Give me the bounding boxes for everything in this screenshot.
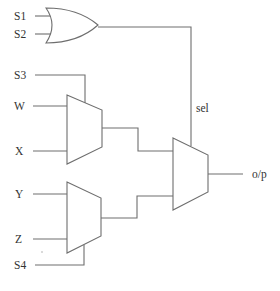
label-output: o/p xyxy=(252,168,267,181)
label-w: W xyxy=(14,100,25,112)
label-x: X xyxy=(15,145,24,157)
or-gate xyxy=(46,8,98,43)
mux-3 xyxy=(173,138,208,210)
label-s3: S3 xyxy=(14,69,26,81)
stray-dot xyxy=(41,251,42,252)
mux-2 xyxy=(67,182,101,253)
label-s1: S1 xyxy=(14,10,26,22)
label-y: Y xyxy=(15,188,24,200)
label-s4: S4 xyxy=(14,259,26,271)
wire-mux2-out xyxy=(101,196,173,218)
wire-mux1-out xyxy=(102,128,173,151)
label-z: Z xyxy=(15,233,22,245)
label-sel: sel xyxy=(196,102,209,114)
logic-circuit-diagram: S1 S2 S3 W X Y Z S4 sel o/p xyxy=(0,0,280,291)
mux-1 xyxy=(67,95,102,164)
label-s2: S2 xyxy=(14,28,26,40)
